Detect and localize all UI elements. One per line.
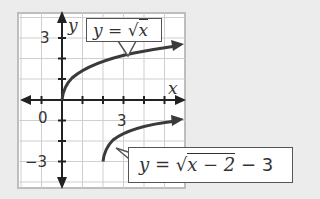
origin-label: 0 (38, 109, 48, 127)
label-sqrt-x: y = √x (86, 18, 162, 42)
label-sqrt-x-radicand: x (139, 19, 149, 40)
label-shifted-sqrt-constant: − 3 (235, 154, 273, 175)
label-shifted-sqrt-lhs: y = (139, 154, 176, 175)
x-tick-3: 3 (117, 112, 127, 130)
y-tick-neg3: −3 (25, 153, 47, 171)
radical-sign-icon: √ (128, 20, 139, 40)
x-axis-label: x (168, 78, 178, 98)
label-sqrt-x-lhs: y = (93, 20, 128, 40)
label-shifted-sqrt-radicand: x − 2 (187, 153, 235, 175)
radical-sign-icon: √ (176, 154, 187, 175)
y-tick-3: 3 (40, 29, 50, 47)
y-axis-label: y (68, 15, 78, 35)
label-shifted-sqrt: y = √x − 2 − 3 (128, 147, 293, 183)
